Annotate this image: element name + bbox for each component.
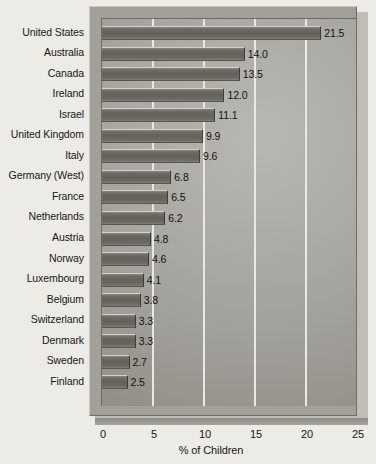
x-tick-label: 20	[301, 428, 313, 441]
category-label: Denmark	[0, 335, 84, 346]
bar-value-label: 2.7	[130, 355, 147, 369]
bar	[102, 88, 224, 102]
bar-value-label: 6.5	[168, 190, 185, 204]
bar-value-label: 4.8	[151, 232, 168, 246]
bar-value-label: 12.0	[224, 88, 247, 102]
bar	[102, 170, 171, 184]
bar-value-label: 6.2	[165, 211, 182, 225]
bar-value-label: 4.6	[149, 252, 166, 266]
category-label: Sweden	[0, 355, 84, 366]
category-label: Canada	[0, 68, 84, 79]
category-label: Ireland	[0, 88, 84, 99]
gridline-20	[305, 19, 307, 406]
category-label: Belgium	[0, 294, 84, 305]
bar	[102, 293, 141, 307]
x-tick-label: 15	[250, 428, 262, 441]
category-label: Australia	[0, 47, 84, 58]
bar	[102, 47, 245, 61]
bar	[102, 252, 149, 266]
bar-value-label: 21.5	[321, 26, 344, 40]
category-label: Netherlands	[0, 211, 84, 222]
category-label: Switzerland	[0, 314, 84, 325]
bar-value-label: 11.1	[215, 108, 237, 122]
value-axis: 0510152025	[0, 428, 376, 444]
bar	[102, 129, 203, 143]
bar-value-label: 6.8	[171, 170, 188, 184]
category-label: France	[0, 191, 84, 202]
bar	[102, 149, 200, 163]
bar	[102, 314, 136, 328]
bar	[102, 355, 130, 369]
category-axis: United StatesAustraliaCanadaIrelandIsrae…	[0, 0, 88, 415]
bar	[102, 273, 144, 287]
x-tick-label: 10	[199, 428, 211, 441]
category-label: Luxembourg	[0, 273, 84, 284]
bar	[102, 26, 321, 40]
category-label: Italy	[0, 150, 84, 161]
bar-value-label: 3.3	[136, 314, 153, 328]
bar	[102, 375, 128, 389]
bar	[102, 67, 240, 81]
bar-value-label: 3.3	[136, 334, 153, 348]
value-axis-rule	[95, 418, 368, 425]
x-tick-label: 5	[151, 428, 157, 441]
plot-area: 21.514.013.512.011.19.99.66.86.56.24.84.…	[101, 18, 356, 406]
x-tick-label: 25	[352, 428, 364, 441]
bar-value-label: 14.0	[245, 47, 268, 61]
category-label: Israel	[0, 109, 84, 120]
bar-value-label: 9.9	[203, 129, 220, 143]
category-label: Austria	[0, 232, 84, 243]
bar-value-label: 13.5	[240, 67, 263, 81]
value-axis-title-text: % of Children	[179, 444, 244, 456]
bar-value-label: 2.5	[128, 375, 145, 389]
bar-value-label: 3.8	[141, 293, 158, 307]
bar-value-label: 9.6	[200, 149, 217, 163]
bar	[102, 232, 151, 246]
category-label: Finland	[0, 376, 84, 387]
bar	[102, 190, 168, 204]
bar-value-label: 4.1	[144, 273, 161, 287]
bar	[102, 108, 215, 122]
category-label: Germany (West)	[0, 170, 84, 181]
x-tick-label: 0	[100, 428, 106, 441]
category-label: Norway	[0, 253, 84, 264]
bar	[102, 211, 165, 225]
bar	[102, 334, 136, 348]
category-label: United Kingdom	[0, 129, 84, 140]
value-axis-title: % of Children	[0, 444, 376, 457]
category-label: United States	[0, 27, 84, 38]
bar-chart: United StatesAustraliaCanadaIrelandIsrae…	[0, 0, 376, 464]
